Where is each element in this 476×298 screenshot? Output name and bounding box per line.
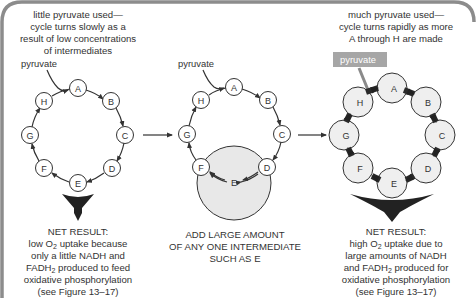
svg-text:C: C: [279, 130, 286, 140]
add-pyruvate-arrow: [203, 70, 224, 89]
svg-text:C: C: [122, 131, 129, 141]
svg-text:G: G: [183, 130, 190, 140]
svg-text:H: H: [41, 97, 48, 107]
svg-text:F: F: [41, 164, 47, 174]
low-intermediates: [22, 80, 134, 192]
high-pyruvate-label: pyruvate: [340, 54, 376, 65]
high-top-caption: much pyruvate used— cycle turns rapidly …: [316, 9, 476, 45]
low-pyruvate-arrow: [47, 70, 68, 91]
svg-text:E: E: [75, 179, 81, 189]
svg-text:H: H: [357, 98, 364, 108]
svg-text:D: D: [264, 163, 271, 173]
svg-text:D: D: [425, 164, 432, 174]
svg-text:A: A: [231, 83, 237, 93]
low-result-arrow: [62, 194, 94, 221]
svg-text:B: B: [108, 97, 114, 107]
svg-text:B: B: [425, 98, 431, 108]
add-bottom-caption: ADD LARGE AMOUNT OF ANY ONE INTERMEDIATE…: [160, 229, 310, 265]
svg-text:B: B: [265, 96, 271, 106]
low-net-result: NET RESULT: low O2 uptake because only a…: [0, 226, 156, 298]
svg-text:C: C: [439, 131, 446, 141]
svg-text:E: E: [231, 178, 237, 188]
svg-text:E: E: [391, 179, 397, 189]
high-net-result: NET RESULT: high O2 uptake due to large …: [316, 226, 476, 298]
svg-text:G: G: [342, 131, 349, 141]
add-pyruvate-label: pyruvate: [178, 58, 214, 69]
svg-text:H: H: [198, 96, 205, 106]
svg-text:A: A: [75, 84, 81, 94]
svg-text:F: F: [198, 163, 204, 173]
svg-text:A: A: [391, 84, 397, 94]
svg-text:D: D: [109, 164, 116, 174]
svg-text:G: G: [26, 131, 33, 141]
svg-text:F: F: [357, 164, 363, 174]
